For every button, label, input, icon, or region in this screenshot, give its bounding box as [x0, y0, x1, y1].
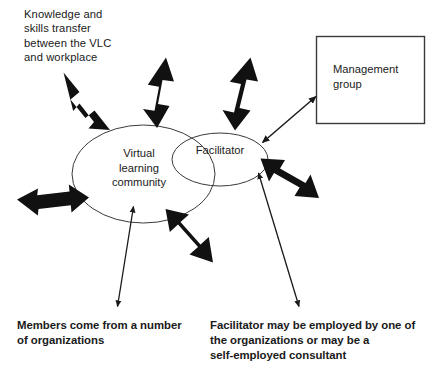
arrow-facilitator-right: [261, 159, 320, 199]
arrow-facilitator-management: [263, 97, 317, 143]
facilitator-ellipse: [172, 133, 268, 186]
members-caption: Members come from a number of organizati…: [17, 318, 203, 348]
arrow-facilitator-employment-caption: [259, 173, 300, 307]
arrow-vlc-lower-right: [166, 209, 214, 263]
arrow-vlc-upper-left: [64, 73, 111, 131]
arrow-vlc-upper-middle: [143, 58, 174, 129]
knowledge-transfer-note: Knowledge and skills transfer between th…: [24, 7, 154, 64]
vlc-label: Virtual learning community: [93, 146, 185, 190]
arrow-vlc-left: [17, 185, 89, 216]
thin-arrow-group: [118, 97, 317, 307]
facilitator-label: Facilitator: [184, 143, 256, 158]
arrow-facilitator-upper: [223, 58, 259, 131]
facilitator-employment-caption: Facilitator may be employed by one of th…: [210, 318, 428, 363]
management-group-label: Management group: [333, 62, 421, 91]
diagram-canvas: Knowledge and skills transfer between th…: [0, 0, 429, 369]
